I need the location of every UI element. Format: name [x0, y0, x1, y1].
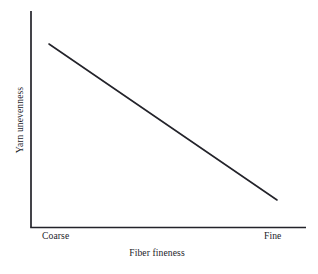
- y-axis-title-container: Yarn unevenness: [9, 72, 31, 168]
- data-series-line: [49, 44, 277, 200]
- chart-figure: Coarse Fine Fiber fineness Yarn unevenne…: [0, 0, 318, 274]
- y-axis-title: Yarn unevenness: [15, 87, 25, 153]
- x-axis-tick-label-fine: Fine: [264, 231, 281, 241]
- x-axis-title: Fiber fineness: [0, 248, 318, 258]
- x-axis-tick-label-coarse: Coarse: [42, 231, 69, 241]
